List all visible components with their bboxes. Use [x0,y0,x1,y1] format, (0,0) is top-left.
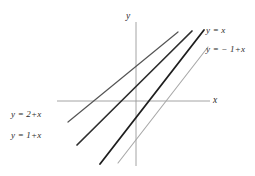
annotation-y-equals-x: y = x [206,26,226,35]
annotation-y-equals-1-plus-x: y = 1+x [11,131,42,140]
line-y-equals-1-plus-x [77,31,192,145]
x-axis-label: x [213,96,217,106]
annotation-y-equals-minus-1-plus-x: y = − 1+x [206,45,245,54]
line-y-equals-minus-1-plus-x [118,47,208,163]
line-graph-figure: y x y = x y = − 1+x y = 2+x y = 1+x [0,0,255,176]
line-y-equals-2-plus-x [68,32,178,122]
annotation-y-equals-2-plus-x: y = 2+x [11,110,42,119]
y-axis-label: y [126,12,130,22]
line-y-equals-x [100,30,204,164]
